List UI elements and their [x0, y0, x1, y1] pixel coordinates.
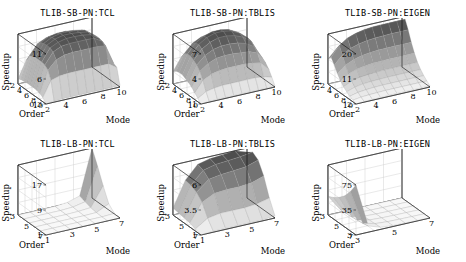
svg-text:1: 1 [200, 236, 205, 245]
svg-text:Order: Order [19, 240, 46, 250]
svg-text:6: 6 [237, 97, 242, 106]
panel-title: TLIB-SB-PN:TCL [0, 8, 155, 18]
svg-text:Speedup: Speedup [1, 53, 11, 91]
svg-text:3: 3 [355, 236, 360, 245]
figure-3d-surface-grid: TLIB-SB-PN:TCL 1160.3108642246810Speedup… [0, 0, 466, 262]
svg-text:5: 5 [334, 222, 339, 231]
panel-2: TLIB-SB-PN:EIGEN 20112108642246810Speedu… [310, 0, 465, 131]
svg-text:11: 11 [342, 75, 352, 84]
svg-text:11: 11 [32, 50, 42, 59]
svg-text:4: 4 [373, 101, 378, 110]
svg-text:Mode: Mode [106, 246, 130, 256]
svg-text:8: 8 [100, 92, 105, 101]
svg-text:6: 6 [179, 91, 184, 100]
plot-area: 75353753357SpeedupOrderMode [310, 149, 465, 262]
svg-text:Mode: Mode [416, 246, 440, 256]
svg-text:2: 2 [355, 105, 360, 114]
panel-title: TLIB-SB-PN:TBLIS [155, 8, 310, 18]
svg-text:9: 9 [37, 206, 42, 215]
svg-text:7: 7 [429, 219, 434, 228]
svg-text:8: 8 [341, 96, 346, 105]
svg-text:Order: Order [329, 240, 356, 250]
svg-text:4: 4 [192, 75, 197, 84]
svg-text:5: 5 [179, 222, 184, 231]
svg-text:35: 35 [342, 206, 352, 215]
svg-text:20: 20 [342, 50, 352, 59]
svg-text:Order: Order [329, 109, 356, 119]
svg-text:3: 3 [225, 230, 230, 239]
panel-0: TLIB-SB-PN:TCL 1160.3108642246810Speedup… [0, 0, 155, 131]
svg-text:6: 6 [392, 97, 397, 106]
svg-text:Mode: Mode [416, 115, 440, 125]
svg-text:75: 75 [342, 181, 352, 190]
svg-text:6: 6 [334, 91, 339, 100]
plot-area: 741108642246810SpeedupOrderMode [155, 18, 310, 131]
svg-text:Mode: Mode [106, 115, 130, 125]
svg-text:8: 8 [31, 96, 36, 105]
panel-title: TLIB-SB-PN:EIGEN [310, 8, 465, 18]
plot-area: 20112108642246810SpeedupOrderMode [310, 18, 465, 131]
svg-text:8: 8 [186, 96, 191, 105]
svg-text:3: 3 [70, 230, 75, 239]
svg-text:Speedup: Speedup [156, 184, 166, 222]
svg-text:Speedup: Speedup [311, 184, 321, 222]
panel-title: TLIB-LB-PN:EIGEN [310, 139, 465, 149]
panel-title: TLIB-LB-PN:TCL [0, 139, 155, 149]
svg-text:Speedup: Speedup [1, 184, 11, 222]
svg-text:Mode: Mode [261, 246, 285, 256]
svg-text:3.5: 3.5 [184, 206, 197, 215]
svg-text:Speedup: Speedup [311, 53, 321, 91]
panel-3: TLIB-LB-PN:TCL 17917531357SpeedupOrderMo… [0, 131, 155, 262]
svg-text:7: 7 [119, 219, 124, 228]
svg-text:10: 10 [116, 88, 126, 97]
svg-text:Order: Order [19, 109, 46, 119]
svg-text:5: 5 [94, 225, 99, 234]
panel-1: TLIB-SB-PN:TBLIS 741108642246810SpeedupO… [155, 0, 310, 131]
svg-text:6: 6 [24, 91, 29, 100]
panel-4: TLIB-LB-PN:TBLIS 63.517531357SpeedupOrde… [155, 131, 310, 262]
svg-text:7: 7 [274, 219, 279, 228]
svg-text:4: 4 [63, 101, 68, 110]
svg-text:4: 4 [172, 86, 177, 95]
svg-text:5: 5 [392, 228, 397, 237]
svg-text:6: 6 [37, 75, 42, 84]
svg-text:2: 2 [200, 105, 205, 114]
svg-text:10: 10 [426, 88, 436, 97]
svg-text:Speedup: Speedup [156, 53, 166, 91]
svg-text:4: 4 [17, 86, 22, 95]
svg-text:5: 5 [24, 222, 29, 231]
plot-area: 63.517531357SpeedupOrderMode [155, 149, 310, 262]
svg-text:7: 7 [192, 50, 197, 59]
panel-5: TLIB-LB-PN:EIGEN 75353753357SpeedupOrder… [310, 131, 465, 262]
svg-text:8: 8 [255, 92, 260, 101]
panel-title: TLIB-LB-PN:TBLIS [155, 139, 310, 149]
plot-area: 17917531357SpeedupOrderMode [0, 149, 155, 262]
svg-text:17: 17 [32, 181, 42, 190]
svg-text:4: 4 [218, 101, 223, 110]
svg-text:8: 8 [410, 92, 415, 101]
plot-area: 1160.3108642246810SpeedupOrderMode [0, 18, 155, 131]
svg-text:Mode: Mode [261, 115, 285, 125]
svg-text:6: 6 [192, 181, 197, 190]
svg-text:6: 6 [82, 97, 87, 106]
svg-text:5: 5 [249, 225, 254, 234]
svg-text:Order: Order [174, 109, 201, 119]
svg-text:Order: Order [174, 240, 201, 250]
svg-text:4: 4 [327, 86, 332, 95]
svg-text:10: 10 [271, 88, 281, 97]
svg-text:1: 1 [45, 236, 50, 245]
svg-text:2: 2 [45, 105, 50, 114]
